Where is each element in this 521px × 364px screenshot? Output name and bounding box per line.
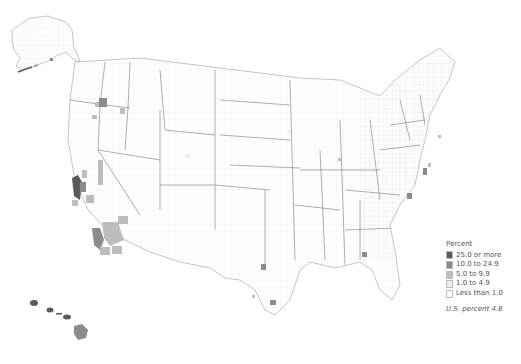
- legend-item-25-plus: 25.0 or more: [446, 251, 503, 261]
- us-percent-note: U.S. percent 4.8: [446, 305, 503, 315]
- legend-item-5-to-9: 5.0 to 9.9: [446, 270, 503, 280]
- legend-swatch: [446, 280, 453, 288]
- legend-label: Less than 1.0: [456, 289, 503, 299]
- legend-label: 10.0 to 24.9: [456, 260, 499, 270]
- legend-item-1-to-4: 1.0 to 4.9: [446, 279, 503, 289]
- map-legend: Percent 25.0 or more 10.0 to 24.9 5.0 to…: [446, 240, 503, 314]
- legend-item-less-than-1: Less than 1.0: [446, 289, 503, 299]
- legend-label: 1.0 to 4.9: [456, 279, 490, 289]
- alaska: [12, 16, 80, 72]
- legend-swatch: [446, 290, 453, 298]
- legend-title: Percent: [446, 240, 503, 250]
- legend-swatch: [446, 261, 453, 269]
- legend-label: 5.0 to 9.9: [456, 270, 490, 280]
- legend-label: 25.0 or more: [456, 251, 501, 261]
- us-county-choropleth-map: [0, 0, 521, 364]
- legend-swatch: [446, 251, 453, 259]
- contiguous-us: [60, 48, 460, 320]
- hawaii: [30, 300, 88, 340]
- legend-swatch: [446, 271, 453, 279]
- legend-item-10-to-24: 10.0 to 24.9: [446, 260, 503, 270]
